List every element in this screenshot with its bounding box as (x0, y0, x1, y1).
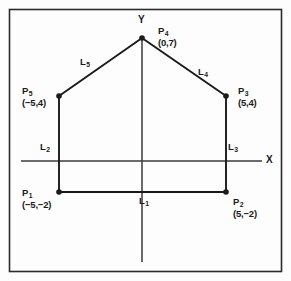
point-label-P5-name: P (22, 85, 28, 96)
point-label-P1-index: 1 (29, 192, 33, 199)
segment-label-L4: L4 (198, 66, 208, 78)
point-label-P1-coord: (−5,−2) (22, 199, 51, 210)
point-label-P3-index: 3 (245, 90, 249, 97)
vertex-dot-P5 (56, 93, 62, 99)
point-label-P4-coord: (0,7) (158, 37, 177, 48)
point-label-P1-name: P (22, 187, 28, 198)
y-axis-label-text: Y (138, 14, 145, 25)
point-label-P4-index: 4 (165, 30, 169, 37)
x-axis-label: X (266, 154, 273, 165)
vertex-dot-P4 (139, 35, 145, 41)
segment-label-L1-index: 1 (145, 200, 149, 207)
y-axis-label: Y (138, 14, 145, 25)
segment-label-L2: L2 (40, 141, 50, 153)
point-label-P4: P4 (0,7) (158, 25, 177, 48)
point-label-P5: P5 (−5,4) (22, 85, 46, 108)
segment-label-L3-index: 3 (234, 146, 238, 153)
point-label-P3-name: P (238, 85, 244, 96)
segment-label-L4-index: 4 (204, 71, 208, 78)
segment-label-L5: L5 (80, 56, 90, 68)
point-label-P3-coord: (5,4) (238, 97, 257, 108)
vertex-dot-P2 (223, 189, 229, 195)
point-label-P2-coord: (5,−2) (233, 208, 257, 219)
point-label-P2-name: P (233, 196, 239, 207)
x-axis-label-text: X (266, 154, 273, 165)
point-label-P5-index: 5 (29, 90, 33, 97)
point-label-P2: P2 (5,−2) (233, 196, 257, 219)
point-label-P4-name: P (158, 25, 164, 36)
figure-container: Y X P4 (0,7) P5 (−5,4) P3 (5,4) P1 (−5,−… (0, 0, 291, 281)
point-label-P2-index: 2 (240, 201, 244, 208)
vertex-dot-P3 (223, 93, 229, 99)
segment-label-L2-index: 2 (46, 146, 50, 153)
vertex-dot-P1 (56, 189, 62, 195)
point-label-P5-coord: (−5,4) (22, 97, 46, 108)
point-label-P1: P1 (−5,−2) (22, 187, 51, 210)
figure-border (10, 10, 282, 272)
segment-label-L1: L1 (139, 195, 149, 207)
point-label-P3: P3 (5,4) (238, 85, 257, 108)
segment-label-L3: L3 (228, 141, 238, 153)
segment-label-L5-index: 5 (86, 61, 90, 68)
